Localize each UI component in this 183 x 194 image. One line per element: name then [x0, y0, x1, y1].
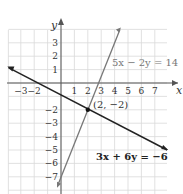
graph-canvas: −3−21234567321−2−3−4−5−6−7 y x 5x − 2y =… — [0, 0, 183, 194]
intersection-label: (2, −2) — [93, 99, 128, 110]
y-axis-label: y — [50, 19, 58, 32]
x-tick-label: 1 — [72, 86, 78, 96]
y-tick-label: −5 — [45, 145, 59, 155]
x-tick-label: 2 — [85, 86, 91, 96]
x-tick-label: −3 — [14, 86, 28, 96]
line2-label: 3x + 6y = −6 — [96, 151, 168, 162]
x-tick-label: 7 — [152, 86, 158, 96]
y-tick-label: 1 — [52, 65, 58, 75]
y-axis-arrow-icon — [58, 18, 64, 25]
line1-label: 5x − 2y = 14 — [112, 57, 178, 68]
x-tick-label: 3 — [98, 86, 104, 96]
x-axis-label: x — [176, 84, 183, 97]
y-tick-label: −2 — [45, 105, 58, 115]
y-tick-label: −4 — [45, 132, 59, 142]
y-tick-label: 3 — [52, 38, 58, 48]
x-tick-label: −2 — [28, 86, 41, 96]
x-tick-label: 5 — [125, 86, 131, 96]
x-tick-label: 6 — [139, 86, 145, 96]
y-tick-label: −3 — [45, 118, 59, 128]
y-tick-label: −7 — [45, 172, 59, 182]
line2-arrow-right-icon — [161, 145, 168, 150]
y-tick-label: −6 — [45, 158, 59, 168]
x-tick-label: 4 — [112, 86, 118, 96]
intersection-point — [86, 108, 90, 112]
y-tick-label: 2 — [52, 51, 58, 61]
